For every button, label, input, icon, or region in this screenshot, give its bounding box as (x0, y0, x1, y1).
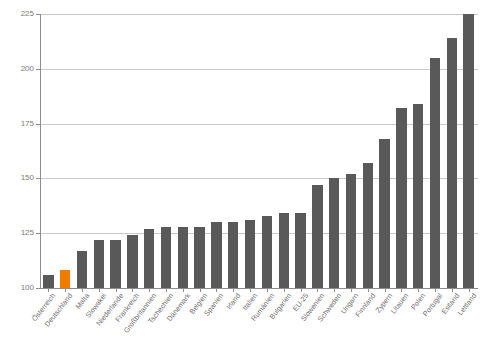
bar-niederlande (110, 240, 120, 288)
bar-estland (447, 38, 457, 288)
bar-tschechien (161, 227, 171, 288)
bar-malta (77, 251, 87, 288)
bar--sterreich (43, 275, 53, 288)
bars-layer (40, 14, 477, 288)
bar-polen (413, 104, 423, 288)
bar-frankreich (127, 235, 137, 288)
y-axis-labels: 100125150175200225 (0, 0, 34, 342)
bar-schweden (329, 178, 339, 288)
bar-italien (245, 220, 255, 288)
bar-portugal (430, 58, 440, 288)
x-axis-category-label: Irland (225, 292, 242, 311)
bar-slowenien (312, 185, 322, 288)
bar-slowakei (94, 240, 104, 288)
bar-spanien (211, 222, 221, 288)
bar-zypern (379, 139, 389, 288)
bar-rum-nien (262, 216, 272, 288)
bar-deutschland (60, 270, 70, 288)
bar-d-nemark (178, 227, 188, 288)
bar-ungarn (346, 174, 356, 288)
y-axis-tick-label: 200 (4, 65, 34, 73)
y-axis-tick-label: 100 (4, 284, 34, 292)
y-axis-tick-label: 125 (4, 229, 34, 237)
bar-litauen (396, 108, 406, 288)
bar-finnland (363, 163, 373, 288)
bar-eu-25 (295, 213, 305, 288)
y-axis-tick-label: 175 (4, 120, 34, 128)
y-axis-tick-label: 225 (4, 10, 34, 18)
x-axis-labels: ÖsterreichDeutschlandMaltaSlowakeiNieder… (40, 292, 477, 342)
y-axis-tick-label: 150 (4, 174, 34, 182)
bar-lettland (463, 14, 473, 288)
bar-bulgarien (279, 213, 289, 288)
bar-belgien (194, 227, 204, 288)
bar-chart: 100125150175200225 ÖsterreichDeutschland… (0, 0, 491, 342)
bar-gro-britannien (144, 229, 154, 288)
bar-irland (228, 222, 238, 288)
